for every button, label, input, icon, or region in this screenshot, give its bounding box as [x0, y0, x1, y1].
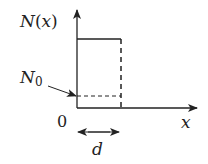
n0-label: N0 [19, 67, 43, 89]
y-axis-label: N(x) [19, 11, 58, 31]
n0-pointer-arrow [48, 86, 76, 96]
width-label: d [92, 139, 103, 159]
x-axis-label: x [181, 112, 191, 132]
origin-label: 0 [57, 112, 67, 131]
diagram-canvas: N(x) N0 0 x d [0, 0, 208, 164]
